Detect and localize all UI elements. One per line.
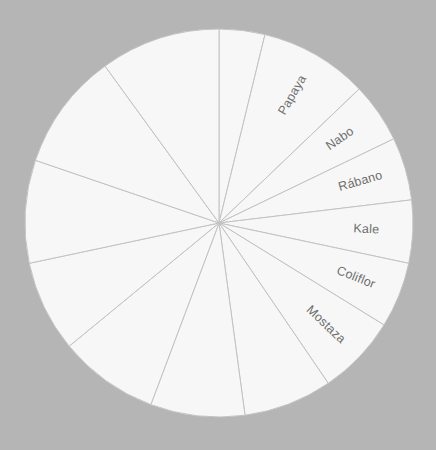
pie-slice-label-kale: Kale xyxy=(353,221,379,236)
pie-chart-svg: PapayaNaboRábanoKaleColiflorMostaza xyxy=(0,0,436,450)
pie-chart-figure: PapayaNaboRábanoKaleColiflorMostaza xyxy=(0,0,436,450)
